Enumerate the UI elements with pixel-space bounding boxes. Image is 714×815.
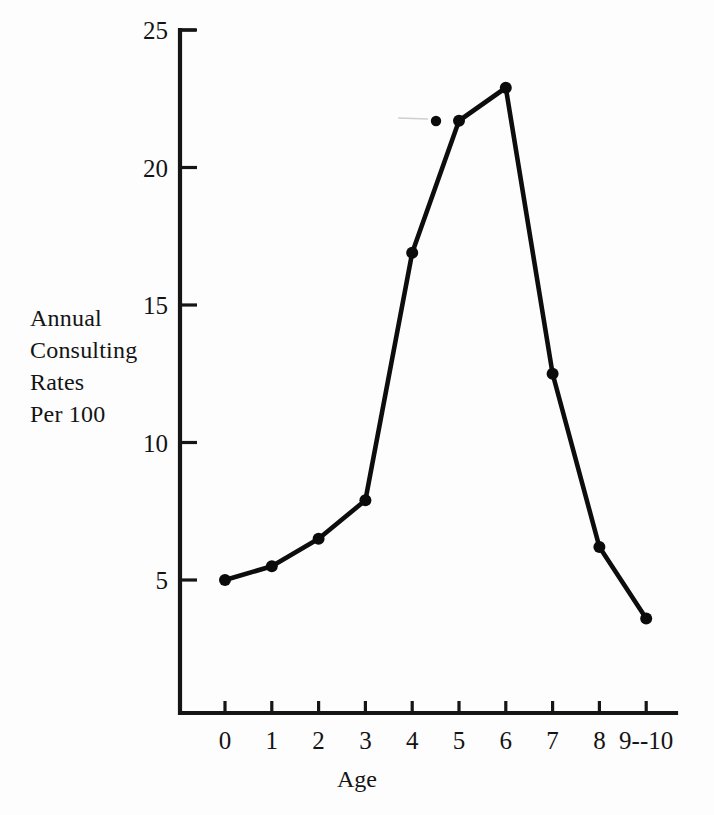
x-tick-label: 7 <box>546 728 559 753</box>
y-axis-title: AnnualConsultingRatesPer 100 <box>30 302 137 430</box>
chart-figure: 510152025 0123456789--10 AnnualConsultin… <box>0 0 714 815</box>
y-axis-title-line: Consulting <box>30 334 137 366</box>
x-tick-label: 1 <box>266 728 279 753</box>
data-point <box>313 533 325 545</box>
data-point <box>219 574 231 586</box>
x-tick-label: 2 <box>312 728 325 753</box>
x-axis-title: Age <box>0 766 714 793</box>
x-tick-label: 9--10 <box>619 728 673 753</box>
data-point <box>453 115 465 127</box>
data-point-markers <box>219 82 652 625</box>
data-point <box>266 560 278 572</box>
y-tick-label: 20 <box>110 155 168 180</box>
data-point <box>406 247 418 259</box>
x-tick-label: 5 <box>453 728 466 753</box>
data-point <box>640 613 652 625</box>
x-tick-label: 6 <box>500 728 513 753</box>
data-series-line <box>225 88 646 619</box>
x-tick-label: 3 <box>359 728 372 753</box>
y-axis-title-line: Per 100 <box>30 398 137 430</box>
x-tick-label: 8 <box>593 728 606 753</box>
axis-lines <box>180 30 676 713</box>
y-axis-title-line: Rates <box>30 366 137 398</box>
x-tick-label: 4 <box>406 728 419 753</box>
x-tick-label: 0 <box>219 728 232 753</box>
y-tick-label: 25 <box>110 18 168 43</box>
data-point <box>359 494 371 506</box>
data-point <box>593 541 605 553</box>
y-tick-label: 5 <box>110 568 168 593</box>
data-point <box>547 368 559 380</box>
y-axis-title-line: Annual <box>30 302 137 334</box>
y-tick-label: 10 <box>110 430 168 455</box>
stray-ink-artifact <box>398 116 441 126</box>
data-point <box>500 82 512 94</box>
y-axis-ticks <box>180 30 197 580</box>
